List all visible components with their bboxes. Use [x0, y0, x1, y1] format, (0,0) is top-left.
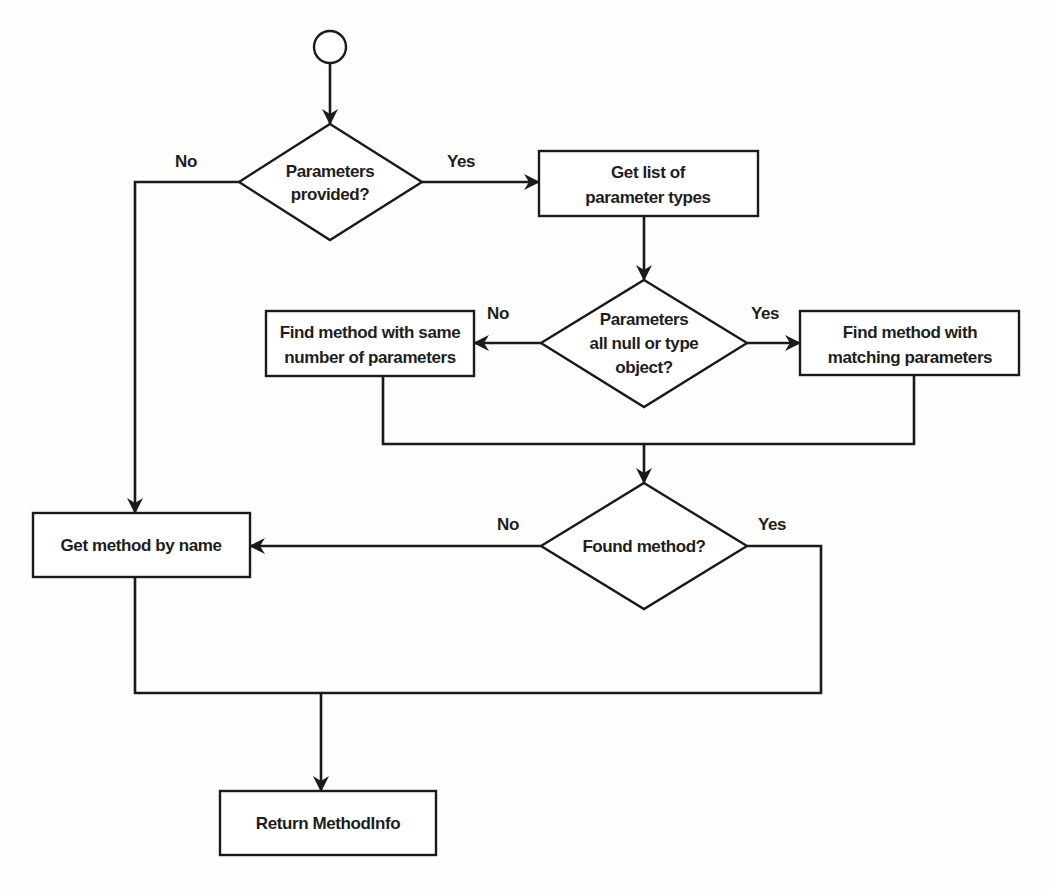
edge-params-provided-no [135, 182, 239, 513]
edge-label-yes: Yes [447, 152, 475, 171]
edge-same-count-merge [383, 376, 644, 444]
edge-label-yes: Yes [758, 515, 786, 534]
decision-label-line2: provided? [291, 185, 370, 204]
process-find-matching: Find method with matching parameters [800, 311, 1019, 375]
process-return-methodinfo: Return MethodInfo [220, 791, 436, 855]
process-label-line2: matching parameters [828, 348, 992, 367]
process-label: Return MethodInfo [256, 814, 400, 833]
flowchart: Parameters provided? No Yes Get list of … [0, 0, 1050, 889]
decision-label: Found method? [582, 537, 705, 556]
process-label-line1: Find method with same [280, 323, 461, 342]
decision-found-method: Found method? [541, 483, 747, 609]
process-get-method-by-name: Get method by name [33, 513, 250, 577]
process-label: Get method by name [61, 536, 222, 555]
process-label-line1: Get list of [611, 163, 686, 182]
edge-label-no: No [487, 304, 509, 323]
process-find-same-count: Find method with same number of paramete… [266, 311, 474, 376]
edge-label-no: No [497, 515, 519, 534]
decision-parameters-provided: Parameters provided? [239, 124, 422, 240]
process-label-line1: Find method with [843, 323, 977, 342]
start-node [314, 31, 346, 63]
decision-label-line1: Parameters [286, 162, 375, 181]
edge-matching-merge [644, 375, 914, 444]
process-label-line2: parameter types [585, 188, 710, 207]
decision-label-line2: all null or type [590, 334, 699, 353]
decision-parameters-null-or-object: Parameters all null or type object? [541, 280, 747, 407]
edge-label-no: No [175, 152, 197, 171]
process-get-parameter-types: Get list of parameter types [539, 151, 758, 216]
process-label-line2: number of parameters [284, 348, 456, 367]
edge-by-name-merge [135, 577, 330, 693]
decision-label-line3: object? [615, 358, 673, 377]
edge-label-yes: Yes [751, 304, 779, 323]
decision-label-line1: Parameters [600, 310, 689, 329]
